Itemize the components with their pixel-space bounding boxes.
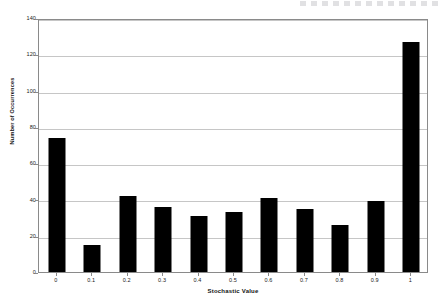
bar-slot (216, 20, 251, 272)
bar-slot (323, 20, 358, 272)
bar-slot (145, 20, 180, 272)
bar-slot (394, 20, 429, 272)
x-tick-mark (162, 273, 163, 276)
y-tick-label: 80 (14, 125, 36, 131)
bar (155, 207, 172, 272)
bar (225, 212, 242, 272)
x-tick-label: 0.9 (357, 277, 393, 283)
scan-artifact (300, 1, 440, 6)
bar (190, 216, 207, 272)
bar-slot (39, 20, 74, 272)
bar (119, 196, 136, 272)
bar (261, 198, 278, 272)
x-tick-mark (91, 273, 92, 276)
y-tick-label: 20 (14, 234, 36, 240)
x-tick-label: 0 (38, 277, 74, 283)
bar (48, 138, 65, 272)
x-tick-mark (127, 273, 128, 276)
bar (84, 245, 101, 272)
x-tick-label: 0.4 (180, 277, 216, 283)
x-tick-label: 0.2 (109, 277, 145, 283)
x-tick-mark (410, 273, 411, 276)
bar (296, 209, 313, 273)
y-tick-mark (35, 273, 38, 274)
bar-slot (252, 20, 287, 272)
bars-layer (39, 20, 427, 272)
bar-slot (287, 20, 322, 272)
x-tick-mark (198, 273, 199, 276)
y-tick-label: 0 (14, 270, 36, 276)
plot-area (38, 19, 428, 273)
x-tick-label: 0.3 (144, 277, 180, 283)
x-tick-mark (375, 273, 376, 276)
bar-slot (358, 20, 393, 272)
x-tick-label: 0.7 (286, 277, 322, 283)
x-axis-title: Stochastic Value (38, 288, 428, 295)
y-axis-title: Number of Occurrences (9, 56, 15, 166)
bar (403, 42, 420, 272)
x-tick-label: 0.1 (73, 277, 109, 283)
x-tick-mark (233, 273, 234, 276)
x-tick-label: 0.8 (321, 277, 357, 283)
x-tick-mark (268, 273, 269, 276)
x-tick-mark (56, 273, 57, 276)
y-tick-label: 140 (14, 16, 36, 22)
y-tick-label: 40 (14, 198, 36, 204)
y-tick-label: 60 (14, 161, 36, 167)
y-tick-label: 120 (14, 52, 36, 58)
x-tick-mark (304, 273, 305, 276)
bar (332, 225, 349, 272)
x-tick-label: 0.5 (215, 277, 251, 283)
bar (367, 201, 384, 272)
x-tick-mark (339, 273, 340, 276)
bar-slot (110, 20, 145, 272)
bar-slot (74, 20, 109, 272)
y-tick-label: 100 (14, 89, 36, 95)
x-tick-label: 0.6 (250, 277, 286, 283)
bar-slot (181, 20, 216, 272)
x-tick-label: 1 (392, 277, 428, 283)
histogram-figure: Number of Occurrences 020406080100120140… (0, 0, 442, 308)
